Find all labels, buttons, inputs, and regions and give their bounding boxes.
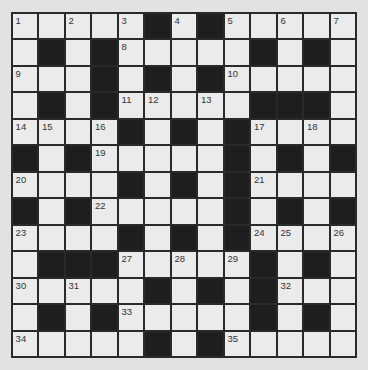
answer-cell[interactable] — [39, 332, 64, 357]
answer-cell[interactable] — [119, 279, 144, 304]
answer-cell[interactable]: 15 — [39, 120, 64, 145]
answer-cell[interactable] — [198, 226, 223, 251]
answer-cell[interactable] — [39, 226, 64, 251]
answer-cell[interactable] — [39, 173, 64, 198]
answer-cell[interactable]: 13 — [198, 93, 223, 118]
answer-cell[interactable] — [251, 199, 276, 224]
answer-cell[interactable] — [304, 279, 329, 304]
answer-cell[interactable] — [13, 305, 38, 330]
answer-cell[interactable]: 26 — [331, 226, 356, 251]
answer-cell[interactable] — [304, 173, 329, 198]
answer-cell[interactable] — [13, 252, 38, 277]
answer-cell[interactable] — [145, 40, 170, 65]
answer-cell[interactable] — [39, 14, 64, 39]
answer-cell[interactable] — [66, 305, 91, 330]
answer-cell[interactable] — [66, 40, 91, 65]
answer-cell[interactable] — [304, 226, 329, 251]
answer-cell[interactable] — [198, 40, 223, 65]
answer-cell[interactable]: 35 — [225, 332, 250, 357]
answer-cell[interactable]: 22 — [92, 199, 117, 224]
answer-cell[interactable] — [331, 120, 356, 145]
answer-cell[interactable] — [66, 67, 91, 92]
answer-cell[interactable]: 24 — [251, 226, 276, 251]
answer-cell[interactable] — [331, 40, 356, 65]
answer-cell[interactable]: 29 — [225, 252, 250, 277]
answer-cell[interactable] — [331, 252, 356, 277]
answer-cell[interactable]: 27 — [119, 252, 144, 277]
answer-cell[interactable]: 33 — [119, 305, 144, 330]
answer-cell[interactable] — [66, 332, 91, 357]
answer-cell[interactable]: 11 — [119, 93, 144, 118]
answer-cell[interactable]: 6 — [278, 14, 303, 39]
answer-cell[interactable]: 2 — [66, 14, 91, 39]
answer-cell[interactable]: 19 — [92, 146, 117, 171]
answer-cell[interactable]: 23 — [13, 226, 38, 251]
answer-cell[interactable] — [39, 146, 64, 171]
answer-cell[interactable] — [39, 199, 64, 224]
answer-cell[interactable]: 1 — [13, 14, 38, 39]
answer-cell[interactable] — [119, 199, 144, 224]
answer-cell[interactable]: 14 — [13, 120, 38, 145]
answer-cell[interactable] — [198, 173, 223, 198]
answer-cell[interactable] — [304, 67, 329, 92]
answer-cell[interactable] — [251, 14, 276, 39]
answer-cell[interactable] — [92, 226, 117, 251]
answer-cell[interactable] — [172, 199, 197, 224]
answer-cell[interactable]: 20 — [13, 173, 38, 198]
answer-cell[interactable] — [251, 146, 276, 171]
answer-cell[interactable] — [278, 40, 303, 65]
answer-cell[interactable] — [92, 173, 117, 198]
answer-cell[interactable]: 10 — [225, 67, 250, 92]
answer-cell[interactable] — [251, 332, 276, 357]
answer-cell[interactable] — [278, 67, 303, 92]
answer-cell[interactable]: 3 — [119, 14, 144, 39]
answer-cell[interactable] — [225, 305, 250, 330]
answer-cell[interactable]: 9 — [13, 67, 38, 92]
answer-cell[interactable] — [39, 67, 64, 92]
answer-cell[interactable] — [172, 146, 197, 171]
answer-cell[interactable] — [251, 67, 276, 92]
answer-cell[interactable] — [198, 199, 223, 224]
answer-cell[interactable] — [331, 332, 356, 357]
answer-cell[interactable] — [304, 199, 329, 224]
answer-cell[interactable] — [145, 226, 170, 251]
answer-cell[interactable] — [331, 93, 356, 118]
answer-cell[interactable]: 28 — [172, 252, 197, 277]
answer-cell[interactable] — [145, 146, 170, 171]
answer-cell[interactable] — [225, 279, 250, 304]
answer-cell[interactable] — [119, 146, 144, 171]
answer-cell[interactable]: 16 — [92, 120, 117, 145]
answer-cell[interactable] — [172, 332, 197, 357]
answer-cell[interactable] — [278, 173, 303, 198]
answer-cell[interactable] — [66, 120, 91, 145]
answer-cell[interactable] — [92, 279, 117, 304]
answer-cell[interactable]: 8 — [119, 40, 144, 65]
answer-cell[interactable]: 12 — [145, 93, 170, 118]
answer-cell[interactable]: 21 — [251, 173, 276, 198]
answer-cell[interactable] — [278, 332, 303, 357]
answer-cell[interactable] — [331, 67, 356, 92]
answer-cell[interactable] — [172, 305, 197, 330]
answer-cell[interactable] — [145, 173, 170, 198]
answer-cell[interactable] — [145, 252, 170, 277]
answer-cell[interactable] — [198, 120, 223, 145]
answer-cell[interactable] — [39, 279, 64, 304]
answer-cell[interactable] — [278, 305, 303, 330]
answer-cell[interactable] — [278, 120, 303, 145]
answer-cell[interactable] — [304, 332, 329, 357]
answer-cell[interactable] — [172, 279, 197, 304]
answer-cell[interactable]: 5 — [225, 14, 250, 39]
answer-cell[interactable] — [331, 279, 356, 304]
answer-cell[interactable] — [304, 14, 329, 39]
answer-cell[interactable] — [13, 93, 38, 118]
answer-cell[interactable] — [198, 252, 223, 277]
answer-cell[interactable] — [66, 226, 91, 251]
answer-cell[interactable] — [172, 93, 197, 118]
answer-cell[interactable] — [278, 252, 303, 277]
answer-cell[interactable] — [66, 93, 91, 118]
answer-cell[interactable] — [92, 14, 117, 39]
answer-cell[interactable] — [172, 67, 197, 92]
answer-cell[interactable]: 31 — [66, 279, 91, 304]
answer-cell[interactable]: 25 — [278, 226, 303, 251]
answer-cell[interactable]: 32 — [278, 279, 303, 304]
